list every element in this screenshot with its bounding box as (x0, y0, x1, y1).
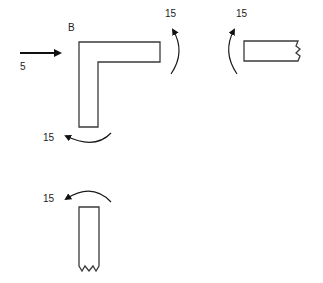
horizontal-cut-segment (244, 41, 300, 61)
moment-arrow-bottom-segment (66, 191, 111, 202)
moment-label-right-of-l: 15 (165, 9, 176, 19)
vertical-cut-segment (79, 207, 99, 271)
moment-label-right-segment: 15 (236, 9, 247, 19)
force-value-label: 5 (20, 62, 26, 72)
moment-label-bottom-segment: 15 (43, 194, 54, 204)
l-shaped-member (79, 42, 160, 127)
moment-arrow-right-segment (229, 30, 237, 74)
moment-arrow-below-l (66, 133, 111, 142)
moment-arrow-right-of-l (171, 30, 179, 74)
point-b-label: B (68, 23, 75, 33)
moment-label-below-l: 15 (43, 133, 54, 143)
